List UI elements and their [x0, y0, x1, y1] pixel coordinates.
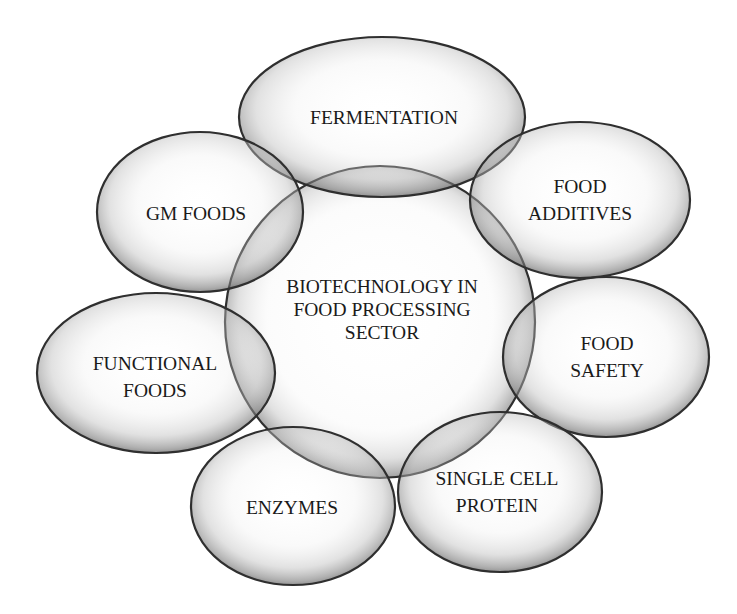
food-additives-label-line-1: FOOD: [528, 173, 632, 200]
center-bubble-label: BIOTECHNOLOGY IN FOOD PROCESSING SECTOR: [286, 275, 478, 344]
center-label-line-1: BIOTECHNOLOGY IN: [286, 275, 478, 298]
enzymes-label-line-1: ENZYMES: [246, 494, 338, 521]
enzymes-bubble-label: ENZYMES: [246, 494, 338, 521]
fermentation-bubble-label: FERMENTATION: [310, 104, 458, 131]
functional-foods-bubble-label: FUNCTIONAL FOODS: [93, 350, 218, 404]
gm-foods-bubble-label: GM FOODS: [146, 200, 246, 227]
food-safety-label-line-1: FOOD: [570, 330, 644, 357]
single-cell-protein-label-line-1: SINGLE CELL: [436, 465, 559, 492]
food-safety-label-line-2: SAFETY: [570, 357, 644, 384]
center-label-line-3: SECTOR: [286, 321, 478, 344]
single-cell-protein-label-line-2: PROTEIN: [436, 492, 559, 519]
functional-foods-label-line-2: FOODS: [93, 377, 218, 404]
food-safety-bubble-label: FOOD SAFETY: [570, 330, 644, 384]
center-label-line-2: FOOD PROCESSING: [286, 298, 478, 321]
fermentation-label-line-1: FERMENTATION: [310, 104, 458, 131]
gm-foods-label-line-1: GM FOODS: [146, 200, 246, 227]
single-cell-protein-bubble-label: SINGLE CELL PROTEIN: [436, 465, 559, 519]
food-additives-bubble-label: FOOD ADDITIVES: [528, 173, 632, 227]
food-additives-label-line-2: ADDITIVES: [528, 200, 632, 227]
functional-foods-label-line-1: FUNCTIONAL: [93, 350, 218, 377]
